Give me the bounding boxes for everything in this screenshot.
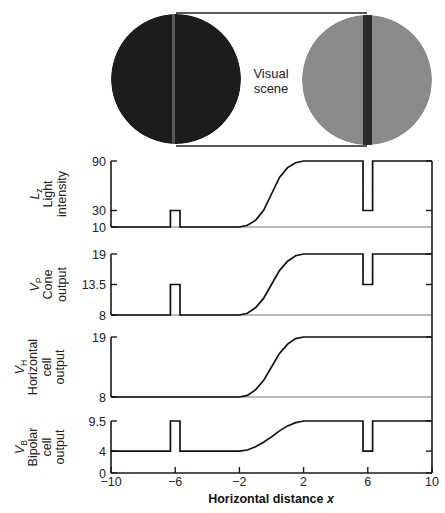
- y-tick-label: 13.5: [82, 278, 106, 292]
- y-tick-label: 8: [99, 309, 106, 323]
- panel-label-bipolar: cell: [40, 438, 54, 457]
- y-tick-label: 4: [99, 445, 106, 459]
- gray-disk-stripe: [363, 15, 372, 145]
- dark-disk-stripe: [172, 14, 175, 144]
- x-tick-label: 2: [300, 475, 307, 489]
- x-tick-label: 6: [364, 475, 371, 489]
- panel-label-horizontal: Horizontal: [26, 339, 40, 395]
- trace-bipolar: [111, 421, 432, 451]
- panel-label-cone: output: [55, 267, 69, 302]
- dark-disk: [111, 14, 241, 144]
- panel-label-light: Light: [41, 180, 55, 208]
- panel-light: 103090LzLightintensity: [28, 155, 433, 235]
- panel-cone: 813.519VPConeoutput: [28, 248, 433, 323]
- x-tick-label: −10: [100, 475, 121, 489]
- panel-label-cone: Cone: [41, 270, 55, 300]
- trace-horizontal: [111, 337, 432, 397]
- x-axis-title: Horizontal distance x: [208, 492, 335, 506]
- y-tick-label: 9.5: [89, 415, 106, 429]
- gray-disk: [302, 15, 432, 145]
- panel-horizontal: 819VHHorizontalcelloutput: [13, 331, 432, 405]
- y-tick-label: 90: [92, 155, 106, 169]
- panel-bipolar: 049.5VBBipolarcelloutput: [13, 415, 432, 481]
- panel-label-horizontal: cell: [40, 358, 54, 377]
- x-tick-label: 10: [425, 475, 439, 489]
- retina-signal-figure: Visual scene 103090LzLightintensity813.5…: [0, 0, 445, 513]
- y-tick-label: 30: [92, 204, 106, 218]
- scene-label-line2: scene: [254, 81, 289, 96]
- x-tick-label: −6: [168, 475, 182, 489]
- panel-label-bipolar: output: [53, 429, 67, 464]
- y-tick-label: 19: [92, 331, 106, 345]
- signal-panels: 103090LzLightintensity813.519VPConeoutpu…: [13, 155, 432, 481]
- panel-label-bipolar: Bipolar: [26, 428, 40, 467]
- panel-label-horizontal: output: [53, 349, 67, 384]
- panel-label-light: intensity: [55, 170, 69, 217]
- scene-label-line1: Visual: [253, 66, 288, 81]
- trace-light: [111, 161, 432, 227]
- x-tick-label: −2: [232, 475, 246, 489]
- y-tick-label: 19: [92, 248, 106, 262]
- x-axis: −10−6−22610: [100, 467, 439, 489]
- trace-cone: [111, 254, 432, 315]
- y-tick-label: 10: [92, 221, 106, 235]
- y-tick-label: 8: [99, 391, 106, 405]
